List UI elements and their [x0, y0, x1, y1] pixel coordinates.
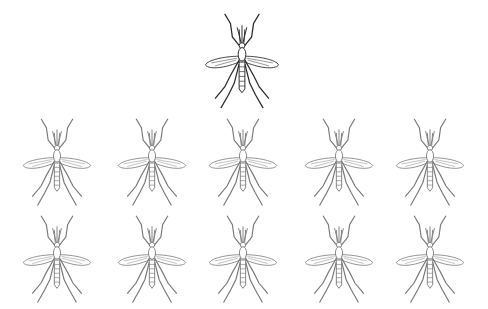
dark-mosquito-illustration	[202, 12, 282, 112]
light-mosquito-illustration	[17, 117, 97, 209]
light-mosquito-illustration	[112, 117, 192, 209]
light-mosquito-illustration	[299, 214, 379, 306]
light-mosquito-illustration	[203, 117, 283, 209]
light-mosquito-illustration	[17, 214, 97, 306]
light-mosquito-illustration	[112, 214, 192, 306]
light-mosquito-illustration	[390, 214, 470, 306]
light-mosquito-illustration	[299, 117, 379, 209]
light-mosquito-illustration	[203, 214, 283, 306]
light-mosquito-illustration	[390, 117, 470, 209]
